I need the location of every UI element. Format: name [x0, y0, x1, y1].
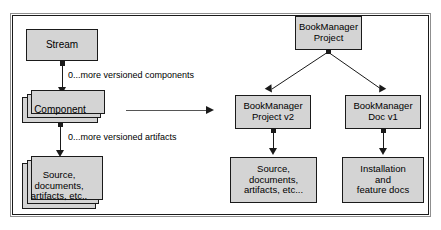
edge-label-component-artifacts: 0...more versioned artifacts [68, 132, 177, 142]
node-artifacts[interactable]: Source, documents, artifacts, etc.. [22, 163, 96, 209]
maps-to-arrow-shaft [126, 110, 208, 111]
edge-arrowhead-doc-to-docs [379, 148, 387, 155]
node-component-label: Component [32, 104, 88, 116]
node-artifacts-label: Source, documents, artifacts, etc.. [29, 170, 90, 203]
edge-arrowhead-v2-to-src [269, 148, 277, 155]
diagram-canvas: Stream 0...more versioned components Com… [0, 0, 441, 230]
node-stream-label: Stream [44, 39, 80, 51]
node-bookmanager-source[interactable]: Source, documents, artifacts, etc... [230, 157, 317, 203]
node-bookmanager-project-v2[interactable]: BookManager Project v2 [235, 95, 311, 129]
edge-dot-stream [60, 61, 65, 66]
node-bookmanager-doc-v1-label: BookManager Doc v1 [351, 101, 414, 123]
node-bookmanager-docs-label: Installation and feature docs [355, 164, 411, 197]
node-bookmanager-docs[interactable]: Installation and feature docs [342, 157, 424, 203]
node-component[interactable]: Component [22, 97, 98, 123]
maps-to-arrow-head [206, 106, 214, 114]
node-stream[interactable]: Stream [26, 29, 98, 61]
edge-label-stream-component: 0...more versioned components [68, 70, 194, 80]
node-bookmanager-source-label: Source, documents, artifacts, etc... [242, 164, 305, 197]
node-bookmanager-doc-v1[interactable]: BookManager Doc v1 [345, 95, 421, 129]
node-bookmanager-project[interactable]: BookManager Project [295, 16, 362, 50]
node-bookmanager-project-v2-label: BookManager Project v2 [241, 101, 304, 123]
node-bookmanager-project-label: BookManager Project [297, 22, 360, 44]
